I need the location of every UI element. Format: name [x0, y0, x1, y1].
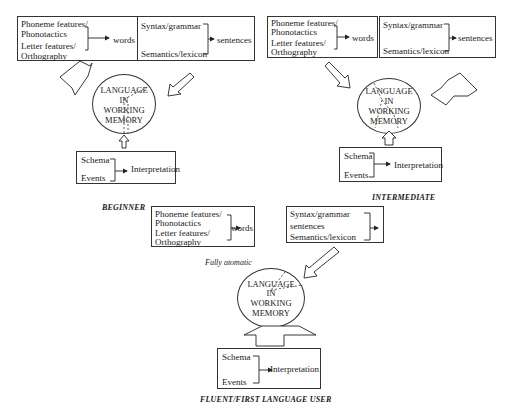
- diagram-connectors: [0, 0, 511, 418]
